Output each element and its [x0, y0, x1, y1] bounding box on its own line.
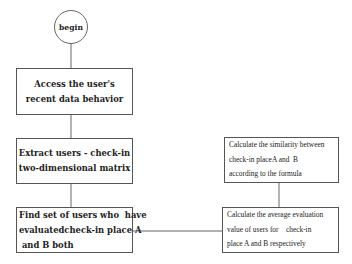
node-average-evaluation: Calculate the average evaluation value o… — [222, 207, 339, 253]
node-extract-matrix: Extract users - check-in two-dimensional… — [16, 138, 133, 184]
node-text-line: Extract users - check-in — [17, 146, 132, 161]
node-text-line: Find set of users who have — [19, 208, 132, 223]
node-text-line: two-dimensional matrix — [17, 161, 132, 176]
node-text-line: Access the user's — [17, 77, 132, 92]
node-text-line: value of users for check-in — [227, 223, 338, 238]
node-similarity: Calculate the similarity between check-i… — [224, 137, 339, 183]
node-find-users: Find set of users who have evaluatedchec… — [16, 207, 133, 253]
node-text-line: evaluatedcheck-in place A — [19, 223, 132, 238]
node-text-line: Calculate the similarity between — [229, 138, 338, 153]
flowchart-canvas: begin Access the user's recent data beha… — [0, 0, 352, 264]
node-text-line: check-in placeA and B — [229, 153, 338, 168]
start-node: begin — [54, 10, 88, 44]
node-text-line: Calculate the average evaluation — [227, 208, 338, 223]
start-label: begin — [59, 23, 83, 32]
node-text-line: and B both — [19, 238, 132, 253]
node-text-line: place A and B respectively — [227, 237, 338, 252]
node-text-line: recent data behavior — [17, 92, 132, 107]
node-text-line: according to the formula — [229, 167, 338, 182]
node-access-data: Access the user's recent data behavior — [16, 68, 133, 115]
